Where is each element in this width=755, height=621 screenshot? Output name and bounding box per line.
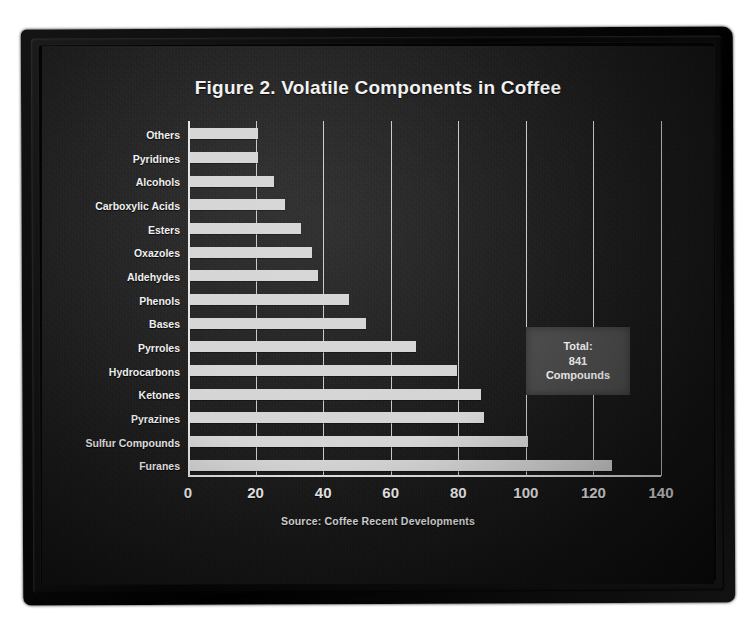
- callout-line-1: Total:: [563, 339, 592, 354]
- x-axis-tick-labels: 020406080100120140: [188, 476, 661, 502]
- bar-carboxylic-acids: [190, 199, 285, 210]
- bar-alcohols: [190, 176, 274, 187]
- x-axis-tick-100: 100: [513, 484, 538, 501]
- x-axis-tick-140: 140: [648, 484, 673, 501]
- callout-line-2: 841: [569, 354, 587, 369]
- bar-row: [190, 270, 663, 281]
- y-axis-label-pyrroles: Pyrroles: [138, 342, 180, 354]
- bar-pyrazines: [190, 412, 484, 423]
- bar-hydrocarbons: [190, 365, 457, 376]
- x-axis-tick-20: 20: [247, 484, 264, 501]
- y-axis-label-furanes: Furanes: [139, 460, 180, 472]
- bar-oxazoles: [190, 247, 312, 258]
- y-axis-label-alcohols: Alcohols: [136, 176, 180, 188]
- bar-row: [190, 199, 663, 210]
- y-axis-label-oxazoles: Oxazoles: [134, 247, 180, 259]
- y-axis-label-ketones: Ketones: [139, 389, 180, 401]
- callout-line-3: Compounds: [546, 368, 610, 383]
- bar-others: [190, 128, 258, 139]
- x-axis-tick-40: 40: [315, 484, 332, 501]
- source-note: Source: Coffee Recent Developments: [42, 515, 714, 527]
- y-axis-label-carboxylic-acids: Carboxylic Acids: [95, 200, 180, 212]
- bar-row: [190, 223, 663, 234]
- x-axis-tick-60: 60: [382, 484, 399, 501]
- bar-aldehydes: [190, 270, 318, 281]
- bar-row: [190, 247, 663, 258]
- x-axis-tick-80: 80: [450, 484, 467, 501]
- bar-pyrroles: [190, 341, 416, 352]
- bar-furanes: [190, 460, 612, 471]
- y-axis-label-pyridines: Pyridines: [133, 153, 180, 165]
- bar-esters: [190, 223, 301, 234]
- y-axis-label-aldehydes: Aldehydes: [127, 271, 180, 283]
- chart-title: Figure 2. Volatile Components in Coffee: [42, 77, 714, 99]
- bar-pyridines: [190, 152, 258, 163]
- bar-row: [190, 176, 663, 187]
- bar-phenols: [190, 294, 349, 305]
- total-compounds-callout: Total: 841 Compounds: [526, 327, 630, 395]
- bar-row: [190, 460, 663, 471]
- y-axis-label-pyrazines: Pyrazines: [131, 413, 180, 425]
- y-axis-label-phenols: Phenols: [139, 295, 180, 307]
- bar-sulfur-compounds: [190, 436, 528, 447]
- plot-area: [188, 121, 661, 476]
- bar-row: [190, 436, 663, 447]
- y-axis-label-hydrocarbons: Hydrocarbons: [109, 366, 180, 378]
- y-axis-label-others: Others: [146, 129, 180, 141]
- x-axis-tick-120: 120: [581, 484, 606, 501]
- x-axis-tick-0: 0: [184, 484, 192, 501]
- framed-poster-photo: Figure 2. Volatile Components in Coffee …: [0, 0, 755, 621]
- y-axis-label-bases: Bases: [149, 318, 180, 330]
- bar-row: [190, 128, 663, 139]
- chart-poster: Figure 2. Volatile Components in Coffee …: [42, 46, 714, 584]
- bar-row: [190, 152, 663, 163]
- y-axis-label-sulfur-compounds: Sulfur Compounds: [86, 437, 181, 449]
- bar-bases: [190, 318, 366, 329]
- bar-ketones: [190, 389, 481, 400]
- bar-row: [190, 294, 663, 305]
- bar-row: [190, 412, 663, 423]
- y-axis-label-esters: Esters: [148, 224, 180, 236]
- bar-series: [190, 121, 661, 476]
- y-axis-category-labels: OthersPyridinesAlcoholsCarboxylic AcidsE…: [42, 121, 188, 476]
